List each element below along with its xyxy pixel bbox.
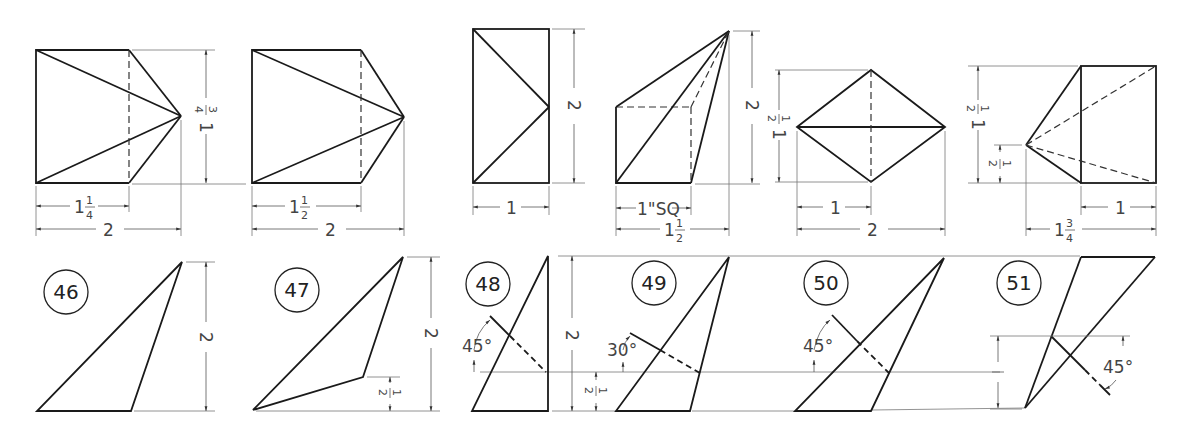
angle-45-label: 45° [462,336,492,356]
dim-1-1-2-whole: 1 [664,220,675,240]
dim-2: 2 [103,220,114,240]
dim-1: 1 [1115,198,1126,218]
dim-1-2-vertical: 1 2 [582,386,609,396]
dim-frac-den: 2 [676,232,683,245]
problem-48-front-view: 48 45° 2 1 2 [462,256,609,411]
problem-49-front-view: 49 30° [607,257,729,411]
dim-frac-num: 1 [596,387,609,394]
dim-1-1-2-whole: 1 [289,197,300,217]
dim-2: 2 [867,220,878,240]
problem-51-top-view: 1 1 2 1 2 1 1 3 4 [964,66,1156,245]
problem-47-top-view: 1 1 2 2 [252,50,404,240]
dim-frac-num: 1 [676,217,683,230]
dim-frac-den: 2 [986,160,999,167]
dim-1-1-4-whole: 1 [74,197,85,217]
problem-51-front-view: 51 45° [990,257,1155,409]
orthographic-drawing-sheet: 1 1 4 2 1 3 4 1 1 2 2 [0,0,1194,431]
angle-30-label: 30° [607,340,637,360]
dim-2-vertical: 2 [742,100,762,111]
dim-frac-den: 4 [1066,232,1073,245]
dim-frac-den: 4 [86,209,93,222]
dim-1-3-4-whole: 1 [1054,220,1065,240]
problem-number-48: 48 [475,272,500,296]
dim-frac-den: 2 [301,209,308,222]
dim-frac-num: 1 [779,115,792,122]
cutting-plane-end [1100,385,1110,395]
dim-frac-den: 2 [765,115,778,122]
problem-46-front-view: 46 2 [37,262,216,411]
cutting-plane-solid [832,315,857,341]
dim-1: 1 [830,198,841,218]
dim-1-2-vertical: 1 2 [376,388,403,398]
problem-number-50: 50 [813,271,838,295]
dim-1-1-2-vertical: 1 1 2 [964,104,991,130]
dim-frac-num: 3 [1066,217,1073,230]
dim-2: 2 [325,220,336,240]
dim-frac-den: 4 [192,106,205,113]
problem-number-51: 51 [1006,271,1031,295]
cutting-plane-hidden [510,336,546,372]
dim-frac-den: 2 [964,105,977,112]
cutting-plane-hidden [1085,370,1100,385]
cutting-plane-solid [1051,336,1085,370]
problem-49-top-view: 2 1"SQ 1 1 2 [616,31,762,245]
cutting-plane-hidden [857,341,889,373]
dim-frac-den: 2 [376,389,389,396]
dim-frac-num: 1 [1000,160,1013,167]
dim-whole: 1 [769,129,789,140]
dim-1-1-2-vertical: 1 1 2 [765,114,792,140]
dim-frac-num: 3 [206,106,219,113]
dim-frac-num: 1 [978,105,991,112]
dim-whole: 1 [968,119,988,130]
dim-1-inch-square: 1"SQ [637,199,680,219]
problem-48-top-view: 2 1 [473,29,585,218]
problem-47-front-view: 47 2 1 2 [253,257,441,411]
dim-frac-den: 2 [582,387,595,394]
problem-50-top-view: 1 1 2 1 2 [765,70,945,240]
dim-1-2-vertical: 1 2 [986,159,1013,169]
problem-number-47: 47 [284,278,309,302]
dim-2-vertical: 2 [562,330,582,341]
problem-number-49: 49 [641,271,666,295]
problem-46-top-view: 1 1 4 2 1 3 4 [36,50,246,240]
angle-45-label: 45° [1103,357,1133,377]
dim-frac-num: 1 [301,194,308,207]
problem-number-46: 46 [53,280,78,304]
dim-2-vertical: 2 [196,332,216,343]
cutting-plane-solid [490,316,510,336]
dim-whole: 1 [196,122,216,133]
dim-1-3-4-vertical: 1 3 4 [192,105,219,133]
dim-frac-num: 1 [390,389,403,396]
angle-45-label: 45° [803,336,833,356]
dim-frac-num: 1 [86,194,93,207]
dim-1: 1 [506,198,517,218]
problem-50-front-view: 50 45° [795,258,944,411]
dim-2-vertical: 2 [421,328,441,339]
cutting-plane-hidden [660,350,700,373]
dim-2-vertical: 2 [564,100,584,111]
